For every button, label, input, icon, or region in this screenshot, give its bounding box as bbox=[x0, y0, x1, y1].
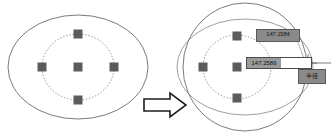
unit-badge: 半径 bbox=[298, 69, 326, 84]
left-node-right[interactable] bbox=[110, 63, 119, 72]
left-node-top[interactable] bbox=[74, 30, 83, 39]
dimension-input-value[interactable]: 147.2586 bbox=[247, 58, 281, 68]
left-node-left[interactable] bbox=[38, 63, 47, 72]
transform-arrow-group bbox=[144, 93, 186, 117]
right-node-center[interactable] bbox=[233, 63, 242, 72]
right-node-left[interactable] bbox=[199, 63, 208, 72]
right-node-top[interactable] bbox=[233, 32, 242, 41]
left-figure-group bbox=[8, 15, 148, 119]
left-node-center[interactable] bbox=[74, 63, 83, 72]
dimension-label-upper: 147.1584 bbox=[256, 29, 300, 42]
left-node-bottom[interactable] bbox=[74, 96, 83, 105]
right-node-bottom[interactable] bbox=[233, 94, 242, 103]
transform-arrow-icon bbox=[144, 93, 186, 117]
